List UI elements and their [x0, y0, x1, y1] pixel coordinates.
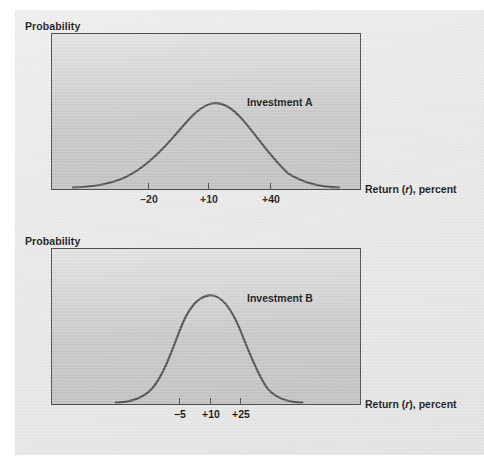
tick-label-a-3: +40	[262, 193, 280, 205]
tick-label-b-2: +10	[202, 408, 220, 420]
tick-label-b-3: +25	[232, 408, 250, 420]
series-label-investment-a: Investment A	[247, 96, 313, 108]
tick-label-a-2: +10	[200, 193, 218, 205]
distribution-curve-investment-a	[52, 34, 360, 189]
chart-panel-investment-a: Probability –20 +10 +40 Return (r), perc…	[15, 20, 484, 220]
tick-mark-b-2	[210, 398, 211, 405]
tick-mark-a-2	[208, 183, 209, 190]
figure-panel: Probability –20 +10 +40 Return (r), perc…	[15, 10, 484, 455]
tick-mark-b-1	[179, 398, 180, 405]
x-axis-title-b-prefix: Return (	[365, 398, 405, 410]
plot-area-investment-a	[51, 33, 361, 190]
distribution-curve-investment-b	[52, 249, 360, 404]
x-axis-title-a-suffix: ), percent	[409, 183, 456, 195]
y-axis-title-b: Probability	[25, 235, 80, 247]
x-axis-title-b: Return (r), percent	[365, 398, 457, 410]
y-axis-title-a: Probability	[25, 20, 80, 32]
chart-panel-investment-b: Probability –5 +10 +25 Return (r), perce…	[15, 235, 484, 435]
tick-label-a-1: –20	[140, 193, 158, 205]
x-axis-title-a: Return (r), percent	[365, 183, 457, 195]
plot-area-investment-b	[51, 248, 361, 405]
series-label-investment-b: Investment B	[247, 292, 313, 304]
tick-label-b-1: –5	[174, 408, 186, 420]
x-axis-title-b-suffix: ), percent	[409, 398, 456, 410]
tick-mark-a-3	[270, 183, 271, 190]
tick-mark-a-1	[148, 183, 149, 190]
tick-mark-b-3	[240, 398, 241, 405]
x-axis-title-a-prefix: Return (	[365, 183, 405, 195]
